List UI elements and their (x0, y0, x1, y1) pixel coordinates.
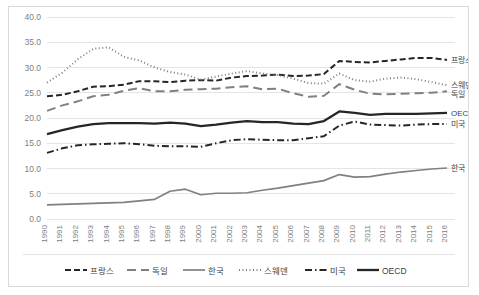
x-tick-label: 2010 (348, 224, 357, 242)
y-axis-tick-labels: 0.05.010.015.020.025.030.035.040.0 (24, 12, 41, 224)
x-tick-label: 2014 (409, 224, 418, 242)
series-line-dash-dot (47, 122, 447, 153)
x-tick-label: 2002 (225, 224, 234, 242)
legend-label: 프랑스 (90, 266, 114, 276)
y-tick-label: 25.0 (24, 88, 41, 98)
series-end-label: 미국 (451, 120, 465, 129)
y-tick-label: 10.0 (24, 164, 41, 174)
y-tick-label: 35.0 (24, 37, 41, 47)
series-line-solid-thin (47, 168, 447, 205)
chart-legend: 프랑스독일한국스웨덴미국OECD (65, 266, 407, 276)
x-tick-label: 2005 (271, 224, 280, 242)
x-tick-label: 1999 (178, 224, 187, 242)
series-end-label: 한국 (451, 164, 465, 173)
legend-label: 한국 (208, 266, 224, 276)
line-chart: 0.05.010.015.020.025.030.035.040.0 프랑스스웨… (9, 7, 468, 286)
gridlines (47, 17, 455, 219)
y-tick-label: 15.0 (24, 138, 41, 148)
x-tick-label: 2016 (440, 224, 449, 242)
x-tick-label: 1990 (40, 224, 49, 242)
series-end-label: 프랑스 (451, 55, 468, 65)
x-tick-label: 1993 (86, 224, 95, 242)
x-tick-label: 2009 (332, 224, 341, 242)
x-tick-label: 2015 (425, 224, 434, 242)
x-tick-label: 2012 (378, 224, 387, 242)
legend-label: OECD (382, 266, 407, 276)
x-tick-label: 1997 (148, 224, 157, 242)
legend-label: 독일 (152, 266, 168, 276)
x-tick-label: 2008 (317, 224, 326, 242)
series-line-solid-thick (47, 111, 447, 134)
x-tick-label: 1994 (102, 224, 111, 242)
x-tick-label: 2011 (363, 224, 372, 242)
x-tick-label: 1992 (71, 224, 80, 242)
chart-container: 0.05.010.015.020.025.030.035.040.0 프랑스스웨… (8, 6, 469, 287)
legend-label: 스웨덴 (264, 266, 288, 276)
series-lines (47, 47, 447, 205)
x-tick-label: 1996 (132, 224, 141, 242)
x-tick-label: 2004 (255, 224, 264, 242)
y-tick-label: 20.0 (24, 113, 41, 123)
series-end-labels: 프랑스스웨덴독일OECD미국한국 (451, 55, 468, 173)
series-line-dotted (47, 47, 447, 85)
series-line-long-dashed (47, 84, 447, 111)
x-tick-label: 1998 (163, 224, 172, 242)
y-tick-label: 30.0 (24, 63, 41, 73)
x-tick-label: 2001 (209, 224, 218, 242)
series-end-label: 독일 (451, 90, 465, 99)
y-tick-label: 40.0 (24, 12, 41, 22)
x-tick-label: 1991 (55, 224, 64, 242)
x-tick-label: 1995 (117, 224, 126, 242)
y-tick-label: 5.0 (29, 189, 41, 199)
x-tick-label: 2000 (194, 224, 203, 242)
y-tick-label: 0.0 (29, 214, 41, 224)
series-end-label: 스웨덴 (451, 80, 468, 90)
x-tick-label: 2003 (240, 224, 249, 242)
x-tick-label: 2007 (302, 224, 311, 242)
x-tick-label: 2006 (286, 224, 295, 242)
x-axis-tick-labels: 1990199119921993199419951996199719981999… (40, 224, 449, 242)
legend-label: 미국 (330, 266, 346, 276)
series-end-label: OECD (451, 109, 468, 118)
series-line-dashed (47, 58, 447, 96)
x-tick-label: 2013 (394, 224, 403, 242)
